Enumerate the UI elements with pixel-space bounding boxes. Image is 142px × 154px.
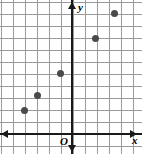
gridline-vertical [121,0,122,154]
gridline-vertical [109,0,110,154]
y-axis-down-arrow [68,145,76,152]
origin-label: O [60,136,68,147]
data-point [92,35,99,42]
gridline-vertical [25,0,26,154]
gridline-vertical [61,0,62,154]
gridline-vertical [85,0,86,154]
y-axis-label: y [78,2,83,13]
gridline-vertical [13,0,14,154]
y-axis-up-arrow [68,2,76,9]
data-point [111,10,118,17]
data-point [57,70,64,77]
gridline-vertical [49,0,50,154]
gridline-vertical [97,0,98,154]
y-axis [71,0,73,154]
coordinate-plane-figure: y x O [0,0,142,154]
data-point [34,92,41,99]
gridline-vertical [37,0,38,154]
x-axis-label: x [132,135,138,146]
gridline-vertical [73,0,74,154]
x-axis-left-arrow [1,130,8,138]
data-point [21,107,28,114]
